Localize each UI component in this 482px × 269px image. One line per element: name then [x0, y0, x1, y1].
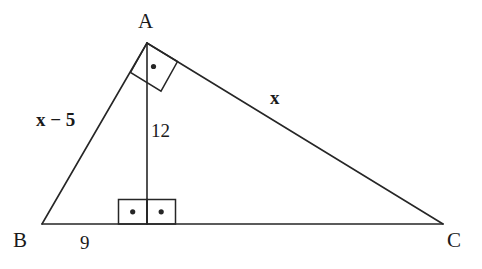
right-angle-dot-adb [130, 209, 135, 214]
vertex-label-c: C [447, 230, 461, 251]
geometry-diagram: A B C 9 12 x − 5 x [0, 0, 482, 269]
segment-label-ab: x − 5 [36, 110, 75, 129]
right-angle-dot-a [151, 64, 156, 69]
segment-label-bd: 9 [80, 233, 90, 252]
right-angle-dot-adc [159, 209, 164, 214]
triangle-figure-svg [0, 0, 482, 269]
vertex-label-a: A [138, 11, 153, 32]
segment-label-altitude: 12 [151, 121, 170, 140]
segment-label-ac: x [270, 88, 280, 107]
segment-ac-line [147, 43, 443, 224]
vertex-label-b: B [13, 230, 27, 251]
